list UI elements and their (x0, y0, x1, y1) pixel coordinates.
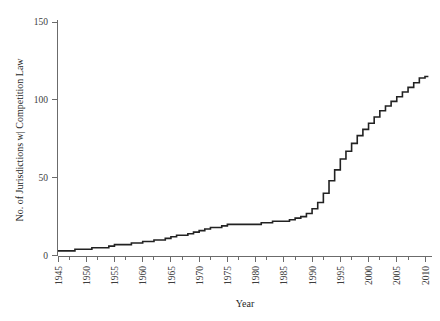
x-axis-title: Year (236, 298, 255, 309)
x-tick-label: 1950 (82, 266, 92, 285)
y-axis-title: No. of Jurisdictions w| Competition Law (14, 58, 25, 222)
chart-page: 050100150 194519501955196019651970197519… (0, 0, 440, 321)
step-chart: 050100150 194519501955196019651970197519… (0, 0, 440, 321)
y-axis-ticks (52, 22, 58, 256)
y-axis-tick-labels: 050100150 (34, 17, 49, 261)
y-axis: 050100150 (34, 17, 58, 261)
x-tick-label: 2000 (364, 266, 374, 285)
x-tick-label: 1955 (110, 266, 120, 285)
y-tick-label: 50 (39, 173, 49, 183)
x-tick-label: 2005 (392, 266, 402, 285)
y-tick-label: 100 (34, 95, 49, 105)
y-tick-label: 150 (34, 17, 49, 27)
x-axis-minor-ticks (69, 257, 408, 261)
x-tick-label: 2010 (421, 266, 431, 285)
x-tick-label: 1945 (54, 266, 64, 285)
x-axis-ticks (58, 257, 425, 263)
x-axis-tick-labels: 1945195019551960196519701975198019851990… (54, 266, 431, 285)
x-axis: 1945195019551960196519701975198019851990… (54, 257, 432, 286)
competition-law-step-line (58, 76, 428, 250)
x-tick-label: 1960 (138, 266, 148, 285)
x-tick-label: 1990 (308, 266, 318, 285)
x-tick-label: 1965 (167, 266, 177, 285)
x-tick-label: 1995 (336, 266, 346, 285)
x-tick-label: 1985 (279, 266, 289, 285)
y-tick-label: 0 (43, 251, 48, 261)
x-tick-label: 1975 (223, 266, 233, 285)
x-tick-label: 1980 (251, 266, 261, 285)
x-tick-label: 1970 (195, 266, 205, 285)
